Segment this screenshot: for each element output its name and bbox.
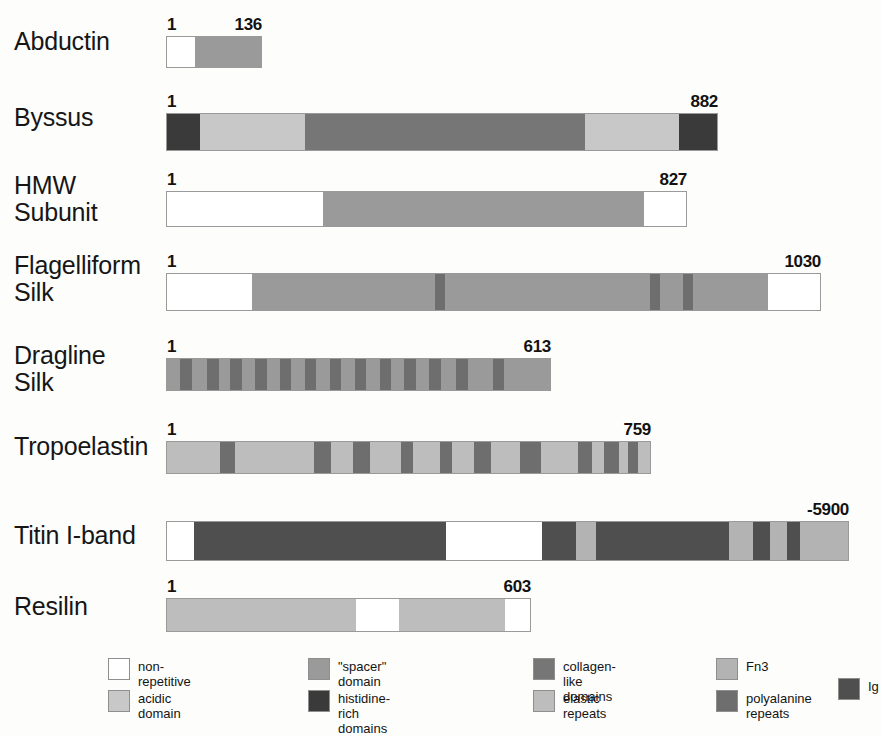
domain-segment [474,442,491,473]
legend-label: elastic repeats [563,691,606,721]
domain-segment [683,274,693,310]
legend-swatch-icon [308,690,330,712]
residue-end-label: 882 [662,93,718,110]
legend-label: Fn3 [746,659,768,674]
residue-start-label: 1 [167,171,176,188]
domain-segment [330,359,341,390]
protein-domain-bar [166,36,262,68]
residue-start-label: 1 [167,421,176,438]
domain-segment [660,274,683,310]
protein-bar-wrapper [166,598,531,632]
protein-domain-bar [166,521,849,561]
residue-end-label: -5900 [793,501,849,518]
domain-segment [207,359,218,390]
domain-segment [356,599,400,631]
residue-end-label: 827 [631,171,687,188]
residue-start-label: 1 [167,16,176,33]
protein-name-label: Byssus [14,104,93,131]
protein-name-label: Titin I-band [14,522,136,549]
legend-swatch-icon [108,690,130,712]
protein-bar-wrapper [166,113,718,151]
domain-segment [355,359,366,390]
domain-segment [628,442,638,473]
residue-end-label: 759 [595,421,651,438]
domain-segment [770,522,787,560]
domain-segment [167,114,200,150]
domain-segment [200,114,305,150]
residue-start-label: 1 [167,578,176,595]
domain-segment [167,522,194,560]
domain-segment [399,599,504,631]
protein-bar-wrapper [166,358,551,391]
domain-segment [604,442,618,473]
residue-end-label: 613 [495,338,551,355]
protein-name-label: Dragline Silk [14,342,106,396]
domain-segment [576,522,596,560]
residue-start-label: 1 [167,253,176,270]
domain-segment [404,359,415,390]
protein-domain-bar [166,113,718,151]
domain-segment [768,274,820,310]
protein-bar-wrapper [166,521,849,561]
protein-domain-bar [166,191,687,227]
protein-name-label: Abductin [14,28,110,55]
domain-segment [323,192,645,226]
domain-segment [167,37,195,67]
domain-segment [644,192,686,226]
legend-swatch-icon [533,690,555,712]
domain-segment [585,114,607,150]
domain-segment [800,522,848,560]
legend-swatch-icon [716,690,738,712]
legend-swatch-icon [716,658,738,680]
protein-domain-bar [166,273,821,311]
domain-segment [753,522,770,560]
domain-segment [167,274,252,310]
domain-segment [220,442,234,473]
legend-label: histidine-rich domains [338,691,390,736]
domain-segment [729,522,753,560]
domain-segment [305,359,316,390]
domain-segment [401,442,413,473]
protein-domain-bar [166,441,651,474]
domain-segment [252,274,435,310]
legend-label: polyalanine repeats [746,691,812,721]
domain-segment [693,274,768,310]
legend-swatch-icon [533,658,555,680]
protein-name-label: HMW Subunit [14,172,97,226]
residue-start-label: 1 [167,93,176,110]
figure-legend: non-repetitiveacidic domain"spacer" doma… [108,656,878,726]
domain-segment [440,442,452,473]
domain-segment [380,359,391,390]
residue-end-label: 136 [206,16,262,33]
domain-segment [180,359,191,390]
domain-segment [195,37,261,67]
domain-segment [446,522,541,560]
domain-segment [596,522,729,560]
domain-segment [493,359,504,390]
protein-bar-wrapper [166,191,687,227]
domain-segment [558,114,586,150]
legend-swatch-icon [308,658,330,680]
protein-bar-wrapper [166,273,821,311]
domain-segment [607,114,679,150]
domain-segment [167,192,323,226]
protein-domain-bar [166,358,551,391]
residue-end-label: 1030 [765,253,821,270]
domain-segment [429,359,440,390]
domain-segment [578,442,592,473]
domain-segment [505,599,530,631]
domain-segment [435,274,445,310]
domain-segment [445,274,651,310]
domain-segment [255,359,266,390]
residue-end-label: 603 [475,578,531,595]
domain-segment [650,274,660,310]
legend-swatch-icon [108,658,130,680]
legend-swatch-icon [838,678,860,700]
domain-segment [167,599,356,631]
protein-name-label: Resilin [14,593,88,620]
domain-segment [464,114,558,150]
residue-start-label: 1 [167,338,176,355]
domain-segment [194,522,446,560]
domain-segment [230,359,241,390]
